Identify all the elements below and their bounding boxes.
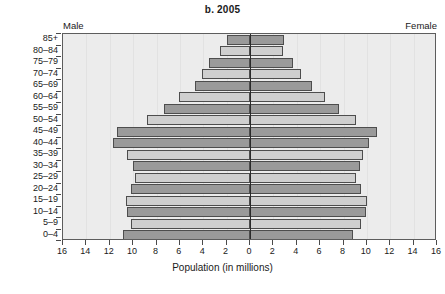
x-axis-label: 6: [167, 246, 191, 257]
bar-male-40–44: [113, 138, 250, 148]
x-axis-label: 10: [120, 246, 144, 257]
bar-row: [63, 161, 435, 171]
x-axis-tick: [272, 240, 273, 245]
bar-male-5–9: [131, 219, 250, 229]
bar-female-50–54: [250, 115, 356, 125]
x-axis-label: 8: [144, 246, 168, 257]
bar-female-5–9: [250, 219, 361, 229]
male-side-caption: Male: [63, 20, 84, 31]
bar-female-65–69: [250, 81, 312, 91]
x-axis-label: 8: [331, 246, 355, 257]
x-axis-tick: [249, 240, 250, 245]
bar-row: [63, 150, 435, 160]
bar-row: [63, 138, 435, 148]
x-axis-tick: [319, 240, 320, 245]
bar-female-60–64: [250, 92, 325, 102]
y-axis-label-55–59: 55–59: [18, 103, 58, 112]
bar-female-10–14: [250, 207, 366, 217]
bar-female-25–29: [250, 173, 356, 183]
bar-female-85+: [250, 35, 284, 45]
x-axis-tick: [202, 240, 203, 245]
population-pyramid-figure: b. 2005 Male Female 85+80–8475–7970–7465…: [0, 0, 445, 294]
bar-male-30–34: [133, 161, 250, 171]
center-axis-line: [250, 34, 251, 239]
bar-male-85+: [227, 35, 250, 45]
y-axis-label-50–54: 50–54: [18, 115, 58, 124]
bar-male-15–19: [126, 196, 250, 206]
y-axis-label-25–29: 25–29: [18, 172, 58, 181]
bar-row: [63, 58, 435, 68]
bar-row: [63, 184, 435, 194]
x-axis-tick: [62, 240, 63, 245]
x-axis-label: 12: [97, 246, 121, 257]
bar-row: [63, 115, 435, 125]
bar-male-25–29: [135, 173, 250, 183]
x-axis-label: 6: [307, 246, 331, 257]
y-axis-label-70–74: 70–74: [18, 69, 58, 78]
bar-female-30–34: [250, 161, 360, 171]
x-axis-tick: [366, 240, 367, 245]
x-axis-tick: [109, 240, 110, 245]
bar-row: [63, 35, 435, 45]
x-axis-tick: [85, 240, 86, 245]
x-axis-tick: [389, 240, 390, 245]
female-side-caption: Female: [405, 20, 437, 31]
x-axis-title: Population (in millions): [0, 262, 445, 273]
x-axis-tick: [179, 240, 180, 245]
x-axis-label: 16: [424, 246, 445, 257]
y-axis-label-45–49: 45–49: [18, 126, 58, 135]
y-axis-label-65–69: 65–69: [18, 80, 58, 89]
x-axis-tick: [413, 240, 414, 245]
plot-area: [62, 33, 436, 240]
y-axis-label-30–34: 30–34: [18, 161, 58, 170]
bar-row: [63, 127, 435, 137]
x-axis-label: 10: [354, 246, 378, 257]
bar-female-15–19: [250, 196, 367, 206]
bar-row: [63, 173, 435, 183]
y-axis-label-80–84: 80–84: [18, 46, 58, 55]
y-axis-label-75–79: 75–79: [18, 57, 58, 66]
y-axis-label-40–44: 40–44: [18, 138, 58, 147]
x-axis-tick: [343, 240, 344, 245]
bar-male-35–39: [127, 150, 250, 160]
bar-row: [63, 81, 435, 91]
bar-male-70–74: [202, 69, 250, 79]
y-axis-label-0–4: 0–4: [18, 230, 58, 239]
bar-male-65–69: [195, 81, 250, 91]
bar-male-55–59: [164, 104, 250, 114]
bar-female-75–79: [250, 58, 293, 68]
y-axis-label-15–19: 15–19: [18, 195, 58, 204]
x-axis-label: 14: [401, 246, 425, 257]
x-axis-label: 2: [214, 246, 238, 257]
bar-male-20–24: [131, 184, 250, 194]
x-axis-labels: 1614121086420246810121416: [0, 246, 445, 258]
y-axis-label-5–9: 5–9: [18, 218, 58, 227]
x-axis-label: 4: [190, 246, 214, 257]
bar-female-0–4: [250, 230, 353, 240]
bar-row: [63, 196, 435, 206]
bar-row: [63, 219, 435, 229]
y-axis-label-20–24: 20–24: [18, 184, 58, 193]
bar-row: [63, 104, 435, 114]
bar-female-70–74: [250, 69, 301, 79]
bar-male-0–4: [123, 230, 250, 240]
bar-female-35–39: [250, 150, 363, 160]
bar-male-60–64: [179, 92, 250, 102]
bar-row: [63, 207, 435, 217]
bar-row: [63, 230, 435, 240]
x-axis-tick: [226, 240, 227, 245]
y-axis-label-85+: 85+: [18, 34, 58, 43]
chart-title: b. 2005: [0, 4, 445, 15]
x-axis-tick: [156, 240, 157, 245]
bar-female-40–44: [250, 138, 369, 148]
bar-female-55–59: [250, 104, 339, 114]
y-axis-labels: 85+80–8475–7970–7465–6960–6455–5950–5445…: [14, 33, 58, 240]
y-axis-label-60–64: 60–64: [18, 92, 58, 101]
x-axis-label: 4: [284, 246, 308, 257]
bar-row: [63, 46, 435, 56]
y-axis-label-35–39: 35–39: [18, 149, 58, 158]
bar-female-80–84: [250, 46, 283, 56]
x-axis-label: 2: [260, 246, 284, 257]
x-axis-label: 16: [50, 246, 74, 257]
x-axis-tick: [296, 240, 297, 245]
